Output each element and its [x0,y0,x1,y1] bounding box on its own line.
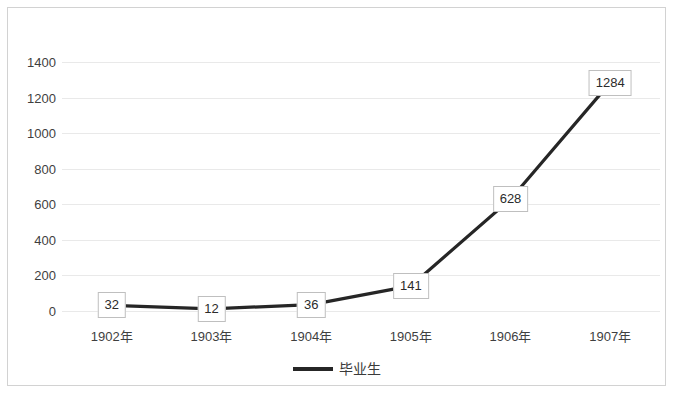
y-axis-tick-label: 1200 [10,91,56,104]
y-axis-tick-label: 200 [10,269,56,282]
y-axis-tick-label: 400 [10,233,56,246]
x-axis-tick-label: 1903年 [191,330,233,343]
y-axis-tick-label: 800 [10,162,56,175]
chart-container: 0200400600800100012001400 1902年1903年1904… [0,0,673,393]
gridline [62,240,660,241]
x-axis-tick-label: 1906年 [490,330,532,343]
x-axis-tick-label: 1905年 [390,330,432,343]
gridline [62,275,660,276]
gridline [62,98,660,99]
gridline [62,204,660,205]
gridline [62,311,660,312]
x-axis-tick-label: 1907年 [589,330,631,343]
data-point-label: 1284 [589,70,632,96]
data-point-label: 32 [98,292,126,318]
gridline [62,62,660,63]
gridline [62,133,660,134]
chart-legend: 毕业生 [0,362,673,376]
y-axis-tick-label: 600 [10,198,56,211]
gridline [62,169,660,170]
legend-label-graduates: 毕业生 [339,362,381,376]
x-axis-tick-label: 1904年 [290,330,332,343]
data-point-label: 36 [297,292,325,318]
y-axis-tick-label: 0 [10,305,56,318]
legend-line-swatch [293,367,333,371]
y-axis-tick-label: 1000 [10,127,56,140]
data-point-label: 628 [493,186,529,212]
data-point-label: 141 [393,273,429,299]
x-axis: 1902年1903年1904年1905年1906年1907年 [62,330,660,350]
plot-area [62,62,660,311]
x-axis-tick-label: 1902年 [91,330,133,343]
y-axis: 0200400600800100012001400 [6,62,56,311]
data-point-label: 12 [197,296,225,322]
y-axis-tick-label: 1400 [10,56,56,69]
